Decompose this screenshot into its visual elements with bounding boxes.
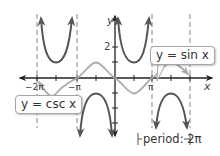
axes bbox=[20, 16, 212, 136]
sin-callout: y = sin x bbox=[150, 46, 215, 65]
x-tick-label-neg-2pi: −2π bbox=[25, 82, 44, 92]
y-axis-label: y bbox=[107, 14, 114, 27]
sin-curve bbox=[39, 63, 188, 96]
x-tick-label-pi: π bbox=[148, 82, 153, 92]
x-axis-label: x bbox=[204, 80, 211, 93]
period-label: period: 2π bbox=[143, 132, 201, 146]
csc-callout: y = csc x bbox=[15, 95, 82, 114]
x-tick-label-neg-pi: −π bbox=[68, 82, 81, 92]
y-tick-label-2: 2 bbox=[104, 41, 110, 52]
